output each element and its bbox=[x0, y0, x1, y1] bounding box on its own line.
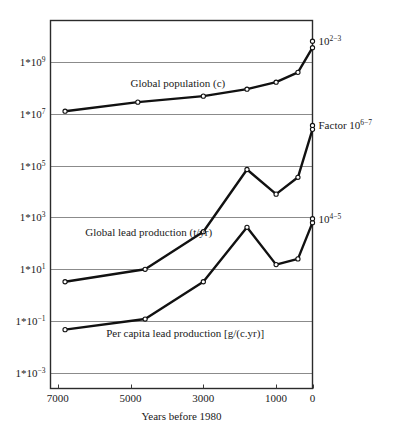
data-point-marker bbox=[274, 192, 278, 196]
y-tick-label: 1*109 bbox=[20, 54, 46, 68]
y-tick-label: 1*10−3 bbox=[16, 365, 46, 379]
annotation-per-capita-factor: 104−5 bbox=[319, 211, 342, 225]
data-point-marker bbox=[296, 70, 300, 74]
data-point-marker bbox=[63, 328, 67, 332]
x-tick-label: 3000 bbox=[192, 392, 215, 404]
series-label-2: Per capita lead production [g/(c.yr)] bbox=[106, 327, 264, 340]
x-tick-label: 7000 bbox=[47, 392, 70, 404]
data-point-marker bbox=[143, 317, 147, 321]
y-tick-label: 1*101 bbox=[20, 262, 46, 276]
y-tick-label: 1*103 bbox=[20, 210, 46, 224]
y-tick-labels-group: 1*1091*1071*1051*1031*1011*10−11*10−3 bbox=[16, 54, 46, 378]
lead-production-log-chart: 1*1091*1071*1051*1031*1011*10−11*10−3 70… bbox=[0, 0, 396, 438]
y-tick-label: 1*107 bbox=[20, 106, 46, 120]
data-point-marker bbox=[310, 46, 314, 50]
chart-page: 1*1091*1071*1051*1031*1011*10−11*10−3 70… bbox=[0, 0, 396, 438]
data-point-marker bbox=[296, 175, 300, 179]
annotation-lead-production-factor: Factor 106−7 bbox=[319, 118, 373, 132]
annotation-population-factor: 102−3 bbox=[319, 34, 342, 48]
x-tick-label: 1000 bbox=[265, 392, 288, 404]
x-axis-title: Years before 1980 bbox=[141, 410, 222, 422]
data-point-marker bbox=[245, 225, 249, 229]
series-label-1: Global lead production (t/yr) bbox=[85, 226, 212, 239]
data-point-marker bbox=[201, 280, 205, 284]
x-tick-label: 5000 bbox=[120, 392, 143, 404]
data-point-marker bbox=[63, 280, 67, 284]
y-tick-label: 1*105 bbox=[20, 158, 46, 172]
data-point-marker bbox=[136, 100, 140, 104]
data-point-marker bbox=[245, 87, 249, 91]
annotation-anchor-marker bbox=[310, 123, 314, 127]
data-point-marker bbox=[245, 167, 249, 171]
annotations-group: 102−3Factor 106−7104−5 bbox=[310, 34, 372, 225]
axis-title-group: Years before 1980 bbox=[141, 410, 222, 422]
data-point-marker bbox=[63, 109, 67, 113]
data-point-marker bbox=[274, 263, 278, 267]
x-tick-labels-group: 70005000300010000 bbox=[47, 392, 316, 404]
series-label-0: Global population (c) bbox=[131, 77, 226, 90]
x-tick-label: 0 bbox=[310, 392, 316, 404]
annotation-anchor-marker bbox=[310, 217, 314, 221]
series-line-1 bbox=[65, 129, 312, 281]
data-point-marker bbox=[201, 94, 205, 98]
data-point-marker bbox=[274, 80, 278, 84]
annotation-anchor-marker bbox=[310, 39, 314, 43]
data-point-marker bbox=[296, 257, 300, 261]
data-point-marker bbox=[143, 267, 147, 271]
y-tick-label: 1*10−1 bbox=[16, 314, 46, 328]
